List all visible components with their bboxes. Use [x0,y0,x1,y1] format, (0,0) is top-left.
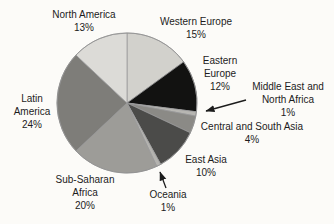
label-middle-east-north-africa: Middle East and North Africa 1% [252,80,324,119]
label-line: 1% [149,201,186,214]
label-line: Oceania [149,188,186,201]
label-line: Western Europe [160,15,232,28]
label-line: Eastern [203,54,237,67]
label-line: 12% [203,80,237,93]
pie-chart-figure: North America 13% Western Europe 15% Eas… [0,0,334,224]
label-line: Middle East and [252,80,324,93]
label-line: Europe [203,67,237,80]
label-eastern-europe: Eastern Europe 12% [203,54,237,93]
label-sub-saharan-africa: Sub-Saharan Africa 20% [56,173,115,212]
mena-callout-arrow [206,100,246,111]
label-line: 13% [52,21,115,34]
label-east-asia: East Asia 10% [185,153,227,179]
label-line: 4% [201,133,303,146]
label-line: 10% [185,166,227,179]
label-line: America [14,105,51,118]
pie-slices [57,33,197,173]
label-line: 15% [160,28,232,41]
label-line: 24% [14,118,51,131]
oceania-callout-arrow [160,172,166,188]
label-latin-america: Latin America 24% [14,92,51,131]
label-line: East Asia [185,153,227,166]
label-line: North America [52,8,115,21]
label-north-america: North America 13% [52,8,115,34]
label-line: Latin [14,92,51,105]
label-line: Sub-Saharan [56,173,115,186]
label-line: 1% [252,106,324,119]
label-line: Africa [56,186,115,199]
label-line: Central and South Asia [201,120,303,133]
label-line: 20% [56,199,115,212]
label-central-south-asia: Central and South Asia 4% [201,120,303,146]
label-line: North Africa [252,93,324,106]
label-western-europe: Western Europe 15% [160,15,232,41]
label-oceania: Oceania 1% [149,188,186,214]
